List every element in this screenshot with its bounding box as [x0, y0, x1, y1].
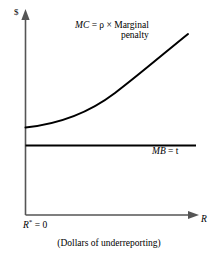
mb-line-annotation: MB = t	[152, 146, 178, 156]
mc-expression: = ρ × Marginal	[92, 20, 149, 30]
mc-annotation-line-2: penalty	[75, 30, 149, 40]
mc-symbol: MC	[75, 20, 89, 30]
mc-curve-annotation: MC = ρ × Marginal penalty	[75, 20, 149, 41]
x-axis-arrowhead	[188, 211, 199, 219]
figure-caption: (Dollars of underreporting)	[0, 238, 218, 248]
mc-annotation-line-1: MC = ρ × Marginal	[75, 20, 149, 30]
mb-symbol: MB	[152, 146, 166, 156]
figure-container: $ R MC = ρ × Marginal penalty MB = t R* …	[0, 0, 218, 261]
mb-expression: = t	[168, 146, 178, 156]
x-axis-label: R	[201, 214, 207, 224]
origin-star: *	[29, 218, 33, 226]
origin-tick-label: R* = 0	[23, 219, 47, 230]
origin-value: = 0	[35, 220, 47, 230]
y-axis-label: $	[14, 8, 19, 18]
y-axis-arrowhead	[21, 9, 29, 20]
mc-curve-series	[26, 34, 189, 128]
